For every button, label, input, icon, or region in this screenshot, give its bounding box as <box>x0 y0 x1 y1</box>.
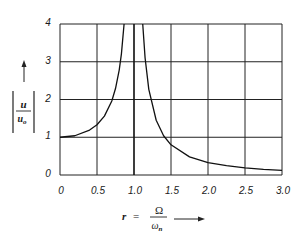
y-label-numerator: u <box>20 98 26 110</box>
x-tick-label: 2.5 <box>238 185 253 196</box>
x-axis-arrow-icon <box>198 217 205 222</box>
x-label-var: r <box>122 210 127 222</box>
x-tick-label: 0 <box>58 185 64 196</box>
x-tick-label: 1.0 <box>128 185 142 196</box>
y-tick-label: 4 <box>45 17 51 28</box>
y-tick-label: 3 <box>45 55 51 66</box>
frequency-response-chart: 00.51.01.52.02.53.0 01234 u uo r = Ω ωn <box>0 0 301 243</box>
y-axis-arrow-icon <box>22 60 27 67</box>
y-tick-label: 1 <box>45 130 51 141</box>
response-curve <box>60 24 124 137</box>
y-tick-label: 0 <box>45 168 51 179</box>
y-tick-label: 2 <box>44 93 51 104</box>
y-label-denominator: uo <box>17 113 27 126</box>
x-tick-label: 2.0 <box>201 185 216 196</box>
x-axis-label: r = Ω ωn <box>122 204 205 233</box>
x-label-numerator: Ω <box>155 204 163 216</box>
x-tick-label: 1.5 <box>165 185 179 196</box>
x-tick-label: 0.5 <box>91 185 105 196</box>
x-axis-ticks: 00.51.01.52.02.53.0 <box>58 185 290 196</box>
x-tick-label: 3.0 <box>276 185 290 196</box>
y-axis-label: u uo <box>13 60 34 133</box>
response-curve <box>143 24 282 170</box>
x-label-equals: = <box>133 210 139 222</box>
y-axis-ticks: 01234 <box>44 17 51 179</box>
plot-grid <box>60 24 282 175</box>
x-label-denominator: ωn <box>152 220 163 233</box>
